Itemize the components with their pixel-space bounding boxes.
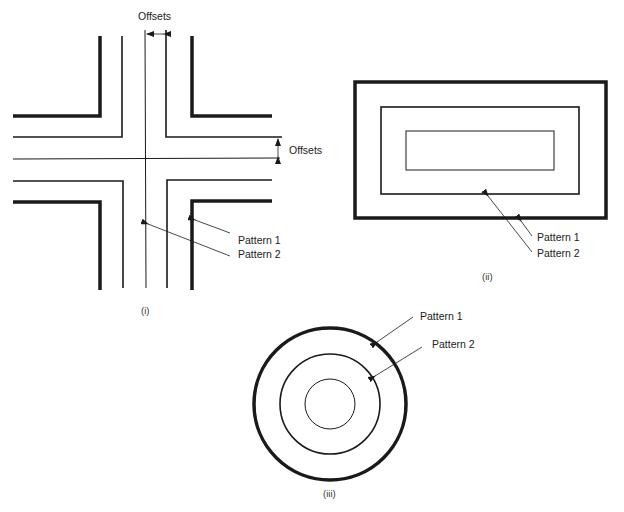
figure-ii-pattern2-leader (488, 196, 532, 252)
figure-i-pattern1-label: Pattern 1 (238, 234, 281, 246)
figure-iii-pattern2-label: Pattern 2 (432, 338, 475, 350)
pattern1-rect-outer (355, 82, 606, 218)
pattern1-corner-tl (13, 36, 100, 116)
centre-rect-inner (406, 131, 554, 170)
figure-ii-pattern2-label: Pattern 2 (537, 247, 580, 259)
pattern1-circle-outer (254, 328, 406, 480)
pattern1-leader (195, 220, 230, 233)
pattern2-rect-middle (381, 107, 579, 194)
pattern1-corner-tr (192, 36, 272, 116)
figure-iii-pattern1-label: Pattern 1 (420, 310, 463, 322)
figure-ii-rectangles (355, 82, 606, 252)
offsets-label-right: Offsets (289, 144, 322, 156)
figure-ii-pattern1-label: Pattern 1 (537, 231, 580, 243)
pattern2-corner-tr (166, 30, 282, 137)
offset-patterns-diagram: Offsets Offsets Pattern 1 Pattern 2 (i) … (0, 0, 624, 512)
figure-iii-caption: (iii) (323, 488, 336, 499)
pattern2-corner-tl (13, 36, 122, 137)
centre-line-horizontal (13, 158, 280, 159)
pattern2-corner-bl (13, 181, 123, 288)
offsets-label-top: Offsets (138, 10, 171, 22)
figure-i-caption: (i) (141, 305, 149, 316)
centre-circle-inner (305, 379, 355, 429)
figure-ii-caption: (ii) (482, 271, 493, 282)
pattern1-corner-bl (13, 202, 100, 290)
figure-i-pattern2-label: Pattern 2 (238, 248, 281, 260)
figure-iii-circles (254, 317, 422, 480)
figure-iii-pattern1-leader (377, 317, 413, 342)
figure-ii-pattern1-leader (521, 221, 532, 236)
pattern2-circle-middle (280, 354, 380, 454)
